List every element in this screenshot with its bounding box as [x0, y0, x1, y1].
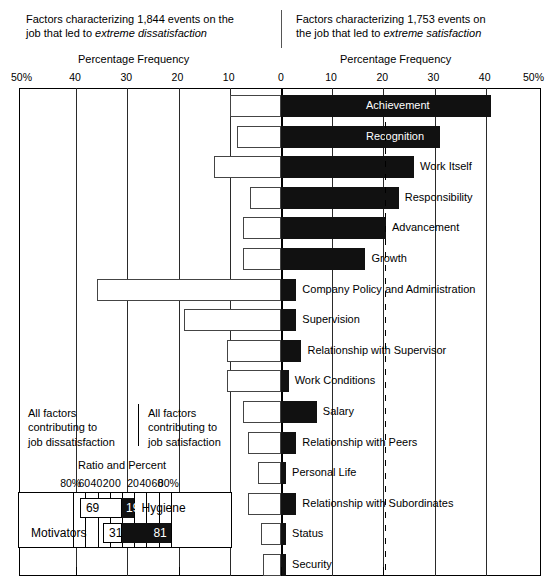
axis-tick-label: 0 [278, 71, 284, 83]
axis-title-right[interactable]: Percentage Frequency [340, 52, 451, 66]
bar-satisfaction [281, 370, 289, 392]
baseline-tickmark [281, 567, 282, 576]
inset-tick-label: 20 [103, 477, 115, 489]
baseline-tickmark [179, 567, 180, 576]
herzberg-chart-figure: Factors characterizing 1,844 events on t… [0, 0, 560, 584]
bar-satisfaction [281, 401, 317, 423]
bar-dissatisfaction [248, 432, 281, 454]
inset-tick-label: 40 [91, 477, 103, 489]
bar-satisfaction [281, 340, 301, 362]
row-label: Growth [371, 252, 406, 264]
caption-divider [138, 404, 139, 446]
axis-tick-label: 10 [223, 71, 235, 83]
bar-satisfaction [281, 493, 296, 515]
axis-tick-label: 30 [120, 71, 132, 83]
row-label: Work Itself [420, 160, 472, 172]
inset-value-satisfaction: 19 [126, 501, 139, 515]
label-zone-dashed-guide [385, 122, 386, 576]
row-label: Responsibility [405, 191, 473, 203]
bar-satisfaction [281, 187, 399, 209]
inset-tick-label: 80% [158, 477, 179, 489]
inset-value-dissatisfaction: 69 [86, 501, 99, 515]
bar-dissatisfaction [261, 523, 281, 545]
row-label: Security [292, 558, 332, 570]
axis-tick-label: 40 [69, 71, 81, 83]
axis-title-left[interactable]: Percentage Frequency [78, 52, 189, 66]
inset-tick-label: 0 [115, 477, 121, 489]
caption-satisfaction: All factors contributing to job satisfac… [148, 406, 221, 449]
bar-satisfaction [281, 523, 286, 545]
bar-satisfaction [281, 432, 296, 454]
baseline-tickmark [76, 567, 77, 576]
bar-dissatisfaction [184, 309, 281, 331]
baseline-tickmark [383, 567, 384, 576]
inset-row-label: Hygiene [142, 501, 186, 515]
bar-satisfaction [281, 248, 365, 270]
inset-tick-label: 40 [139, 477, 151, 489]
header-divider [281, 10, 282, 48]
bar-dissatisfaction [227, 370, 281, 392]
bar-dissatisfaction [243, 248, 281, 270]
bar-dissatisfaction [263, 554, 281, 576]
axis-tick-label: 40 [479, 71, 491, 83]
row-label: Status [292, 527, 323, 539]
inset-value-dissatisfaction: 31 [109, 526, 122, 540]
bar-dissatisfaction [230, 95, 281, 117]
row-label: Relationship with Supervisor [307, 344, 446, 356]
inset-value-satisfaction: 81 [153, 526, 166, 540]
bar-satisfaction [281, 462, 286, 484]
caption-dissatisfaction: All factors contributing to job dissatis… [28, 406, 115, 449]
row-label: Recognition [366, 130, 424, 142]
row-label: Salary [323, 405, 354, 417]
row-label: Relationship with Subordinates [302, 497, 453, 509]
bar-dissatisfaction [97, 279, 281, 301]
inset-tick-label: 60 [78, 477, 90, 489]
inset-title: Ratio and Percent [78, 458, 166, 472]
row-label: Achievement [366, 99, 430, 111]
axis-tick-label: 30 [428, 71, 440, 83]
gridline [486, 88, 487, 576]
header-right-caption: Factors characterizing 1,753 events onth… [296, 12, 551, 40]
row-label: Relationship with Peers [302, 436, 417, 448]
axis-tick-label: 10 [325, 71, 337, 83]
bar-dissatisfaction [250, 187, 281, 209]
bar-dissatisfaction [243, 401, 281, 423]
axis-tick-label: 50% [11, 71, 32, 83]
axis-tick-label: 20 [376, 71, 388, 83]
inset-tick-label: 20 [127, 477, 139, 489]
bar-dissatisfaction [248, 493, 281, 515]
row-label: Company Policy and Administration [302, 283, 475, 295]
bar-dissatisfaction [243, 217, 281, 239]
bar-dissatisfaction [237, 126, 281, 148]
bar-dissatisfaction [227, 340, 281, 362]
bar-dissatisfaction [258, 462, 281, 484]
axis-tick-label: 20 [172, 71, 184, 83]
bar-satisfaction [281, 279, 296, 301]
bar-satisfaction [281, 309, 296, 331]
bar-dissatisfaction [214, 156, 281, 178]
row-label: Work Conditions [295, 374, 376, 386]
header-left-caption: Factors characterizing 1,844 events on t… [26, 12, 276, 40]
row-label: Personal Life [292, 466, 356, 478]
row-label: Supervision [302, 313, 359, 325]
inset-row-label: Motivators [31, 526, 86, 540]
row-label: Advancement [392, 221, 459, 233]
bar-satisfaction [281, 156, 414, 178]
axis-tick-label: 50% [523, 71, 544, 83]
bar-satisfaction [281, 217, 386, 239]
